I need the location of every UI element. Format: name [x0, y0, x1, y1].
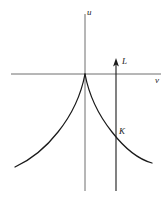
- k-point-label: K: [119, 127, 125, 136]
- v-axis-label: v: [155, 76, 159, 85]
- u-axis-label: u: [87, 8, 92, 17]
- l-vector-label: L: [122, 57, 127, 66]
- math-figure: u v L K: [0, 0, 167, 197]
- cusp-curve-left-branch: [15, 74, 85, 167]
- cusp-curve-right-branch: [85, 74, 152, 163]
- figure-canvas: [0, 0, 167, 197]
